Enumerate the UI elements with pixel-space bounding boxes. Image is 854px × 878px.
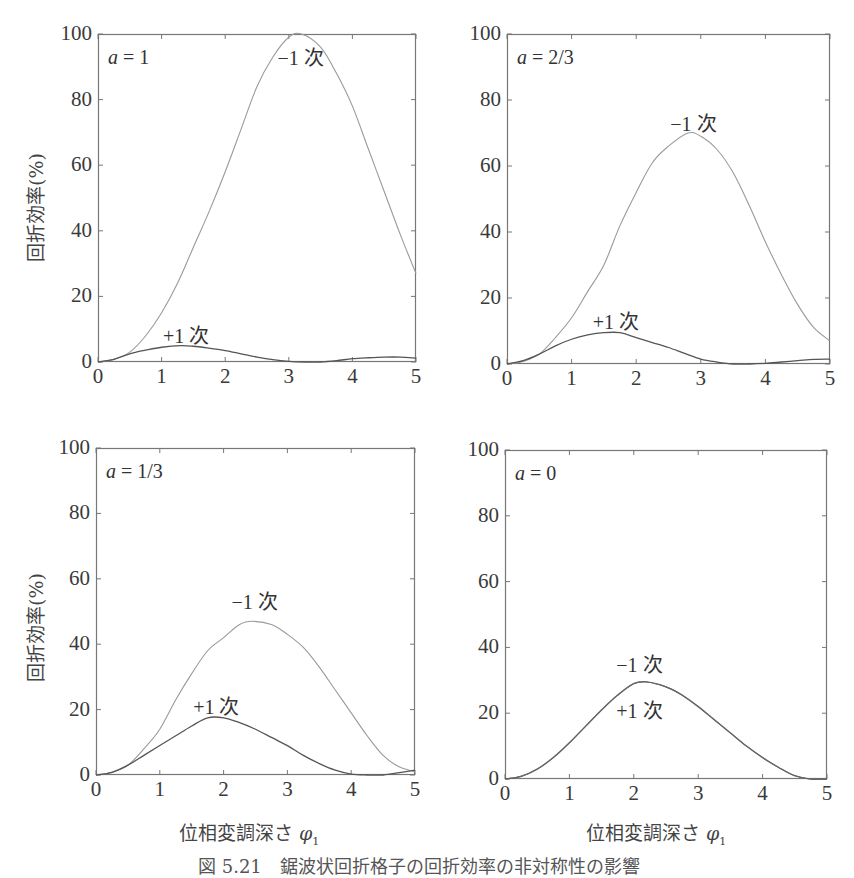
- series-plus1-order-line: [505, 682, 827, 780]
- x-tick-label: 4: [755, 368, 775, 389]
- y-tick-label: 20: [449, 702, 499, 723]
- x-tick-label: 3: [279, 366, 299, 387]
- x-axis-title-text: 位相変調深さ: [586, 822, 706, 844]
- annotation-minus1-order: −1 次: [278, 42, 324, 71]
- x-tick-label: 1: [559, 783, 579, 804]
- plot-area: [505, 450, 827, 779]
- x-tick-label: 2: [624, 783, 644, 804]
- y-tick-label: 40: [451, 221, 501, 242]
- parameter-label: a = 2/3: [517, 46, 574, 69]
- x-axis-title-left: 位相変調深さ φ1: [179, 818, 319, 848]
- x-tick-label: 0: [86, 779, 106, 800]
- y-tick-label: 0: [449, 768, 499, 789]
- x-tick-label: 3: [688, 783, 708, 804]
- parameter-value: = 0: [525, 462, 556, 484]
- series-plus1-order-line: [98, 346, 416, 363]
- axes-frame: [508, 35, 830, 364]
- x-tick-label: 4: [341, 779, 361, 800]
- parameter-symbol: a: [106, 460, 116, 482]
- y-tick-label: 20: [451, 287, 501, 308]
- x-tick-label: 0: [495, 783, 515, 804]
- y-tick-label: 40: [449, 636, 499, 657]
- parameter-symbol: a: [517, 46, 527, 68]
- y-tick-label: 100: [451, 23, 501, 44]
- x-tick-label: 4: [753, 783, 773, 804]
- parameter-symbol: a: [515, 462, 525, 484]
- parameter-symbol: a: [108, 46, 118, 68]
- x-tick-label: 2: [215, 366, 235, 387]
- x-tick-label: 5: [817, 783, 837, 804]
- x-tick-label: 2: [626, 368, 646, 389]
- x-tick-label: 1: [562, 368, 582, 389]
- annotation-plus1-order: +1 次: [163, 320, 209, 349]
- annotation-plus1-order: +1 次: [616, 695, 662, 724]
- y-tick-label: 100: [42, 23, 92, 44]
- phi-symbol: φ: [299, 822, 312, 844]
- axes-frame: [99, 35, 416, 362]
- plot-area: [98, 34, 416, 362]
- y-tick-label: 20: [42, 285, 92, 306]
- series-minus1-order-line: [505, 682, 827, 780]
- x-tick-label: 1: [150, 779, 170, 800]
- parameter-value: = 2/3: [527, 46, 574, 68]
- y-tick-label: 40: [42, 220, 92, 241]
- parameter-value: = 1/3: [116, 460, 163, 482]
- parameter-label: a = 0: [515, 462, 556, 485]
- x-tick-label: 5: [820, 368, 840, 389]
- x-tick-label: 0: [88, 366, 108, 387]
- parameter-value: = 1: [118, 46, 149, 68]
- y-tick-label: 100: [40, 437, 90, 458]
- series-minus1-order-line: [96, 621, 415, 775]
- x-tick-label: 4: [342, 366, 362, 387]
- phi-symbol: φ: [706, 822, 719, 844]
- series-plus1-order-line: [96, 717, 415, 775]
- series-minus1-order-line: [98, 33, 416, 362]
- chart-panel-a1: 020406080100012345a = 1−1 次+1 次: [98, 34, 416, 362]
- phi-subscript: 1: [719, 835, 726, 848]
- y-tick-label: 60: [451, 155, 501, 176]
- plot-area: [507, 34, 830, 364]
- x-axis-title-text: 位相変調深さ: [179, 822, 299, 844]
- x-tick-label: 2: [214, 779, 234, 800]
- annotation-minus1-order: −1 次: [616, 649, 662, 678]
- annotation-minus1-order: −1 次: [232, 586, 278, 615]
- annotation-plus1-order: +1 次: [593, 306, 639, 335]
- phi-subscript: 1: [312, 835, 319, 848]
- y-axis-title-bottom: 回折効率(%): [21, 573, 48, 682]
- x-axis-title-right: 位相変調深さ φ1: [586, 818, 726, 848]
- y-tick-label: 60: [449, 571, 499, 592]
- y-tick-label: 80: [40, 502, 90, 523]
- x-tick-label: 5: [405, 779, 425, 800]
- y-tick-label: 80: [42, 89, 92, 110]
- y-tick-label: 100: [449, 439, 499, 460]
- x-tick-label: 1: [152, 366, 172, 387]
- parameter-label: a = 1/3: [106, 460, 163, 483]
- chart-panel-a0: 020406080100012345a = 0−1 次+1 次: [505, 450, 827, 779]
- x-tick-label: 3: [691, 368, 711, 389]
- chart-panel-a2-3: 020406080100012345a = 2/3−1 次+1 次: [507, 34, 830, 364]
- annotation-plus1-order: +1 次: [193, 691, 239, 720]
- figure-caption: 図 5.21 鋸波状回折格子の回折効率の非対称性の影響: [198, 852, 640, 878]
- y-axis-title-top: 回折効率(%): [21, 153, 48, 262]
- parameter-label: a = 1: [108, 46, 149, 69]
- annotation-minus1-order: −1 次: [670, 108, 716, 137]
- axes-frame: [506, 451, 827, 779]
- y-tick-label: 0: [451, 353, 501, 374]
- x-tick-label: 3: [277, 779, 297, 800]
- y-tick-label: 80: [451, 89, 501, 110]
- y-tick-label: 80: [449, 505, 499, 526]
- y-tick-label: 0: [42, 351, 92, 372]
- chart-panel-a1-3: 020406080100012345a = 1/3−1 次+1 次: [96, 448, 415, 775]
- y-tick-label: 20: [40, 699, 90, 720]
- y-tick-label: 0: [40, 764, 90, 785]
- y-tick-label: 60: [42, 154, 92, 175]
- x-tick-label: 0: [497, 368, 517, 389]
- series-minus1-order-line: [507, 132, 830, 364]
- x-tick-label: 5: [406, 366, 426, 387]
